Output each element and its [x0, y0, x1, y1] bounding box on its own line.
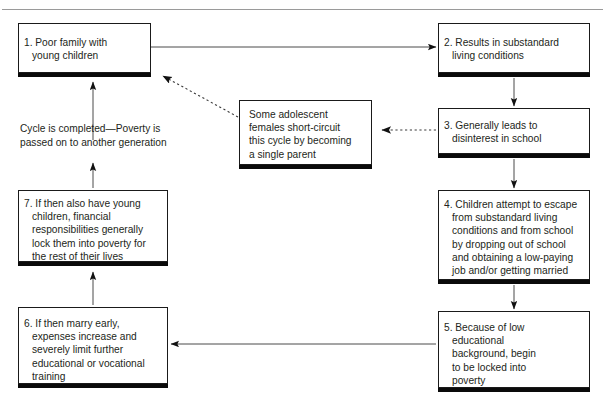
node-6-shadow	[18, 384, 168, 388]
node-6-label: 6. If then marry early, expenses increas…	[19, 317, 167, 383]
node-7-financial-responsibilities[interactable]: 7. If then also have young children, fin…	[18, 190, 168, 262]
connector-adolescent-to-node1	[163, 76, 238, 117]
node-5-label: 5. Because of low educational background…	[439, 321, 589, 387]
node-1-label: 1. Poor family with young children	[19, 36, 150, 62]
node-4-shadow	[438, 280, 590, 284]
node-2-label: 2. Results in substandard living conditi…	[439, 36, 589, 62]
node-4-children-attempt-escape[interactable]: 4. Children attempt to escape from subst…	[438, 190, 590, 280]
flowchart-canvas: 1. Poor family with young children 2. Re…	[0, 0, 605, 402]
node-6-marry-early[interactable]: 6. If then marry early, expenses increas…	[18, 307, 168, 384]
node-3-label: 3. Generally leads to disinterest in sch…	[439, 119, 589, 145]
node-adolescent-short-circuit[interactable]: Some adolescent females short-circuit th…	[239, 100, 372, 165]
node-3-shadow	[438, 154, 590, 158]
node-2-substandard-living[interactable]: 2. Results in substandard living conditi…	[438, 23, 590, 73]
node-7-shadow	[18, 262, 168, 266]
node-1-shadow	[18, 73, 151, 77]
node-2-shadow	[438, 73, 590, 77]
node-adolescent-shadow	[239, 165, 372, 169]
node-3-disinterest-in-school[interactable]: 3. Generally leads to disinterest in sch…	[438, 108, 590, 154]
node-5-locked-into-poverty[interactable]: 5. Because of low educational background…	[438, 311, 590, 388]
node-adolescent-label: Some adolescent females short-circuit th…	[240, 108, 371, 161]
cycle-completed-label: Cycle is completed—Poverty is passed on …	[20, 122, 230, 149]
node-5-shadow	[438, 388, 590, 392]
node-4-label: 4. Children attempt to escape from subst…	[439, 198, 589, 277]
node-7-label: 7. If then also have young children, fin…	[19, 197, 167, 263]
node-1-poor-family[interactable]: 1. Poor family with young children	[18, 23, 151, 73]
